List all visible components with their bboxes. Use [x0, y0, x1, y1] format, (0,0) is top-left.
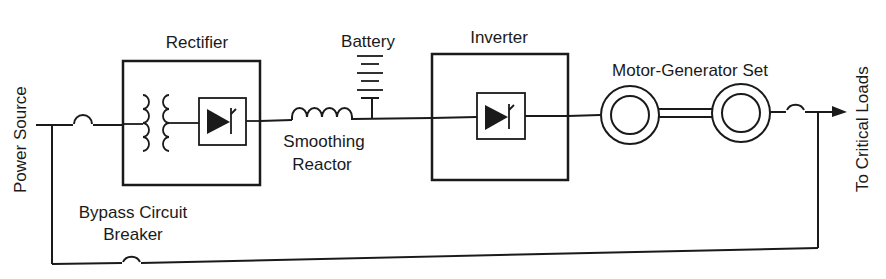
battery-label: Battery	[341, 32, 395, 51]
generator-icon	[712, 84, 770, 142]
input-circuit-breaker	[36, 115, 122, 125]
power-source-label: Power Source	[11, 86, 30, 193]
critical-loads-label: To Critical Loads	[853, 66, 872, 192]
inverter-label: Inverter	[470, 28, 528, 47]
bypass-breaker-icon	[123, 257, 140, 262]
motor-generator-set: Motor-Generator Set	[568, 61, 770, 144]
bypass-circuit: Bypass Circuit Breaker	[52, 112, 818, 264]
smoothing-reactor: Smoothing Reactor	[260, 108, 365, 174]
dc-bus	[352, 118, 432, 119]
ups-block-diagram: Power Source Rectifier Smoothing Reactor	[0, 0, 886, 279]
transformer-icon	[123, 95, 199, 151]
output-circuit-breaker	[770, 105, 847, 117]
arrow-icon	[832, 106, 847, 117]
motor-icon	[601, 86, 659, 144]
battery-icon: Battery	[341, 32, 395, 119]
bypass-breaker-label-2: Breaker	[103, 225, 163, 244]
bypass-breaker-label-1: Bypass Circuit	[79, 203, 188, 222]
motor-generator-label: Motor-Generator Set	[612, 61, 768, 80]
rectifier-label: Rectifier	[166, 33, 229, 52]
smoothing-reactor-label-2: Reactor	[292, 155, 352, 174]
rectifier-block: Rectifier	[123, 33, 260, 185]
rectifier-thyristor-icon	[199, 98, 260, 145]
inverter-thyristor-icon	[477, 93, 525, 139]
smoothing-reactor-label-1: Smoothing	[283, 132, 364, 151]
inverter-block: Inverter	[432, 28, 568, 180]
